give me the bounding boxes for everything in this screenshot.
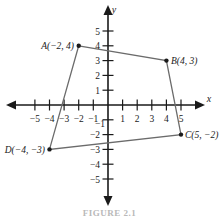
x-tick-label-3: 3: [149, 114, 154, 124]
y-tick-label--1: −1: [95, 119, 105, 129]
point-a-marker: [77, 44, 81, 48]
point-b-label: B(4, 3): [171, 56, 197, 67]
y-tick-label--2: −2: [90, 130, 100, 140]
y-tick-label-3: 3: [95, 56, 100, 66]
figure-caption: FIGURE 2.1: [0, 208, 219, 216]
x-axis-right-arrow-icon: [195, 101, 205, 110]
coordinate-plane-chart: −5 −4 −3 −2 −1 1 2 3 4 5 5 4 3 2 1 −1 −2…: [0, 0, 219, 216]
x-tick-label--4: −4: [44, 114, 54, 124]
y-axis-down-arrow-icon: [104, 196, 113, 206]
y-tick-label-1: 1: [95, 86, 100, 96]
x-tick-label--2: −2: [74, 114, 84, 124]
point-a-label: A(−2, 4): [40, 41, 74, 52]
y-tick-label-2: 2: [95, 71, 100, 81]
y-tick-label--3: −3: [90, 145, 100, 155]
figure-container: −5 −4 −3 −2 −1 1 2 3 4 5 5 4 3 2 1 −1 −2…: [0, 0, 219, 216]
x-tick-label-5: 5: [179, 114, 184, 124]
x-tick-label-1: 1: [120, 114, 125, 124]
point-d-label: D(−4, −3): [4, 145, 45, 156]
point-d-marker: [47, 147, 51, 151]
point-b-marker: [164, 58, 168, 62]
x-tick-label--5: −5: [30, 114, 40, 124]
x-tick-label-2: 2: [135, 114, 140, 124]
point-c-label: C(5, −2): [185, 130, 218, 141]
y-tick-label--5: −5: [90, 175, 100, 185]
x-tick-labels-group: −5 −4 −3 −2 −1 1 2 3 4 5: [30, 114, 184, 124]
quadrilateral-abcd: [50, 46, 182, 150]
y-tick-label--4: −4: [90, 160, 100, 170]
point-c-marker: [179, 132, 183, 136]
y-tick-label-4: 4: [95, 41, 100, 51]
y-axis-label: y: [111, 4, 117, 15]
y-tick-label-5: 5: [95, 27, 100, 37]
x-tick-label-4: 4: [164, 114, 169, 124]
x-axis-left-arrow-icon: [6, 101, 16, 110]
x-tick-label--3: −3: [59, 114, 69, 124]
x-axis-label: x: [206, 93, 212, 104]
